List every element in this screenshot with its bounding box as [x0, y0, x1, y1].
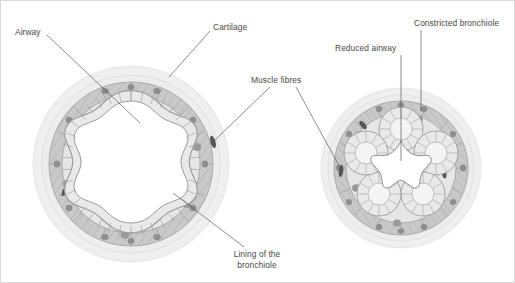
- label-muscle-fibres: Muscle fibres: [251, 75, 301, 85]
- label-reduced-airway: Reduced airway: [335, 43, 397, 53]
- label-constricted-bronchiole: Constricted bronchiole: [414, 18, 499, 28]
- label-airway: Airway: [15, 27, 41, 37]
- diagram-canvas: Airway Cartilage Muscle fibres Lining of…: [1, 1, 514, 282]
- leader-muscle-fibres-left: [213, 87, 270, 142]
- label-lining-line1: Lining of the: [234, 249, 281, 259]
- label-lining-line2: bronchiole: [237, 260, 277, 270]
- label-cartilage: Cartilage: [213, 22, 247, 32]
- normal-bronchiole-diagram: [33, 66, 229, 262]
- bronchiole-diagram-figure: Airway Cartilage Muscle fibres Lining of…: [0, 0, 515, 283]
- leader-cartilage: [169, 31, 210, 77]
